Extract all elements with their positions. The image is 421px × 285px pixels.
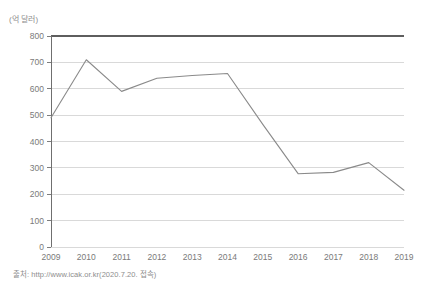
data-series-group (51, 60, 404, 191)
y-tick-labels-group: 0100200300400500600700800 (30, 31, 44, 252)
x-tick-labels-group: 2009201020112012201320142015201620172018… (42, 252, 414, 262)
x-tick-label: 2013 (183, 252, 202, 262)
data-line (51, 60, 404, 191)
y-tick-label: 800 (30, 31, 44, 41)
source-citation: 출처: http://www.icak.or.kr(2020.7.20. 접속) (13, 268, 156, 279)
y-tick-label: 700 (30, 57, 44, 67)
y-axis-group (47, 36, 51, 247)
y-tick-label: 500 (30, 110, 44, 120)
y-tick-label: 100 (30, 216, 44, 226)
x-tick-label: 2019 (395, 252, 414, 262)
gridlines-group (51, 36, 404, 247)
x-tick-label: 2012 (147, 252, 166, 262)
y-tick-label: 300 (30, 163, 44, 173)
x-tick-label: 2014 (218, 252, 237, 262)
line-chart-plot: 0100200300400500600700800 20092010201120… (0, 0, 421, 285)
x-tick-label: 2015 (253, 252, 272, 262)
y-tick-label: 600 (30, 84, 44, 94)
y-tick-label: 400 (30, 137, 44, 147)
x-tick-label: 2016 (289, 252, 308, 262)
y-tick-label: 200 (30, 189, 44, 199)
x-tick-label: 2018 (359, 252, 378, 262)
chart-figure: (억 달러) 0100200300400500600700800 2009201… (0, 0, 421, 285)
x-tick-label: 2011 (112, 252, 131, 262)
x-tick-label: 2017 (324, 252, 343, 262)
x-tick-label: 2009 (42, 252, 61, 262)
y-tick-label: 0 (39, 242, 44, 252)
x-tick-label: 2010 (77, 252, 96, 262)
